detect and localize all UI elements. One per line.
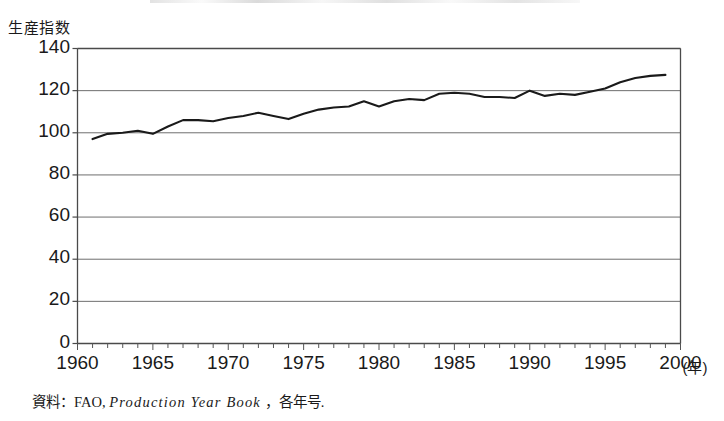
x-tick-label: 1960 [38,352,118,374]
figure-container: 生産指数 (年) 資料：FAO, Production Year Book ，各… [0,0,724,421]
y-tick-label: 0 [6,331,70,353]
x-tick-label: 1975 [264,352,344,374]
x-tick-label: 1995 [565,352,645,374]
source-note: 資料：FAO, Production Year Book ，各年号. [32,390,324,411]
x-tick-label: 1985 [414,352,494,374]
y-tick-label: 100 [6,120,70,142]
y-tick-label: 40 [6,246,70,268]
x-tick-label: 1970 [188,352,268,374]
y-tick-label: 20 [6,288,70,310]
source-note-suffix: ，各年号. [265,394,325,410]
x-tick-label: 1980 [339,352,419,374]
y-tick-label: 60 [6,204,70,226]
x-tick-label: 1990 [490,352,570,374]
y-tick-label: 120 [6,78,70,100]
source-note-prefix: 資料：FAO, [32,394,106,410]
x-tick-label: 2000 [641,352,721,374]
source-note-title: Production Year Book [109,394,261,410]
x-tick-label: 1965 [113,352,193,374]
y-tick-label: 80 [6,162,70,184]
y-tick-label: 140 [6,36,70,58]
